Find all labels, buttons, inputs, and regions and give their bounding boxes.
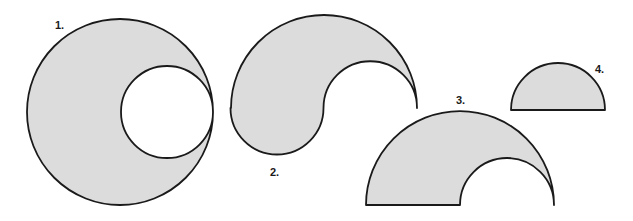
figure-3-label: 3.	[456, 94, 465, 106]
figure-2-s-shape	[231, 15, 418, 155]
figure-2-label: 2.	[270, 166, 279, 178]
figure-3-semicircle-with-cutout	[366, 111, 554, 205]
figure-1: 1.	[27, 19, 213, 205]
figure-4: 4.	[511, 63, 605, 110]
figure-4-label: 4.	[595, 63, 604, 75]
figure-4-semicircle	[511, 63, 605, 110]
figure-1-label: 1.	[55, 19, 64, 31]
geometry-figures-diagram: 1. 2. 3. 4.	[0, 0, 633, 221]
figure-1-circle-with-hole	[27, 19, 213, 205]
